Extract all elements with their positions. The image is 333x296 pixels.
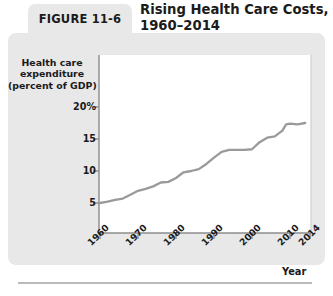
x-tick-label: 1970 bbox=[123, 222, 149, 248]
x-tick-label: 1980 bbox=[161, 222, 187, 248]
x-tick-label: 1960 bbox=[85, 222, 111, 248]
x-axis-tick-labels: 1960 1970 1980 1990 2000 2010 2014 bbox=[0, 0, 333, 296]
x-tick-label: 2010 bbox=[275, 222, 301, 248]
x-tick-label: 2000 bbox=[237, 222, 263, 248]
x-axis-title: Year bbox=[282, 266, 306, 277]
x-tick-label: 2014 bbox=[296, 222, 322, 248]
x-tick-label: 1990 bbox=[199, 222, 225, 248]
